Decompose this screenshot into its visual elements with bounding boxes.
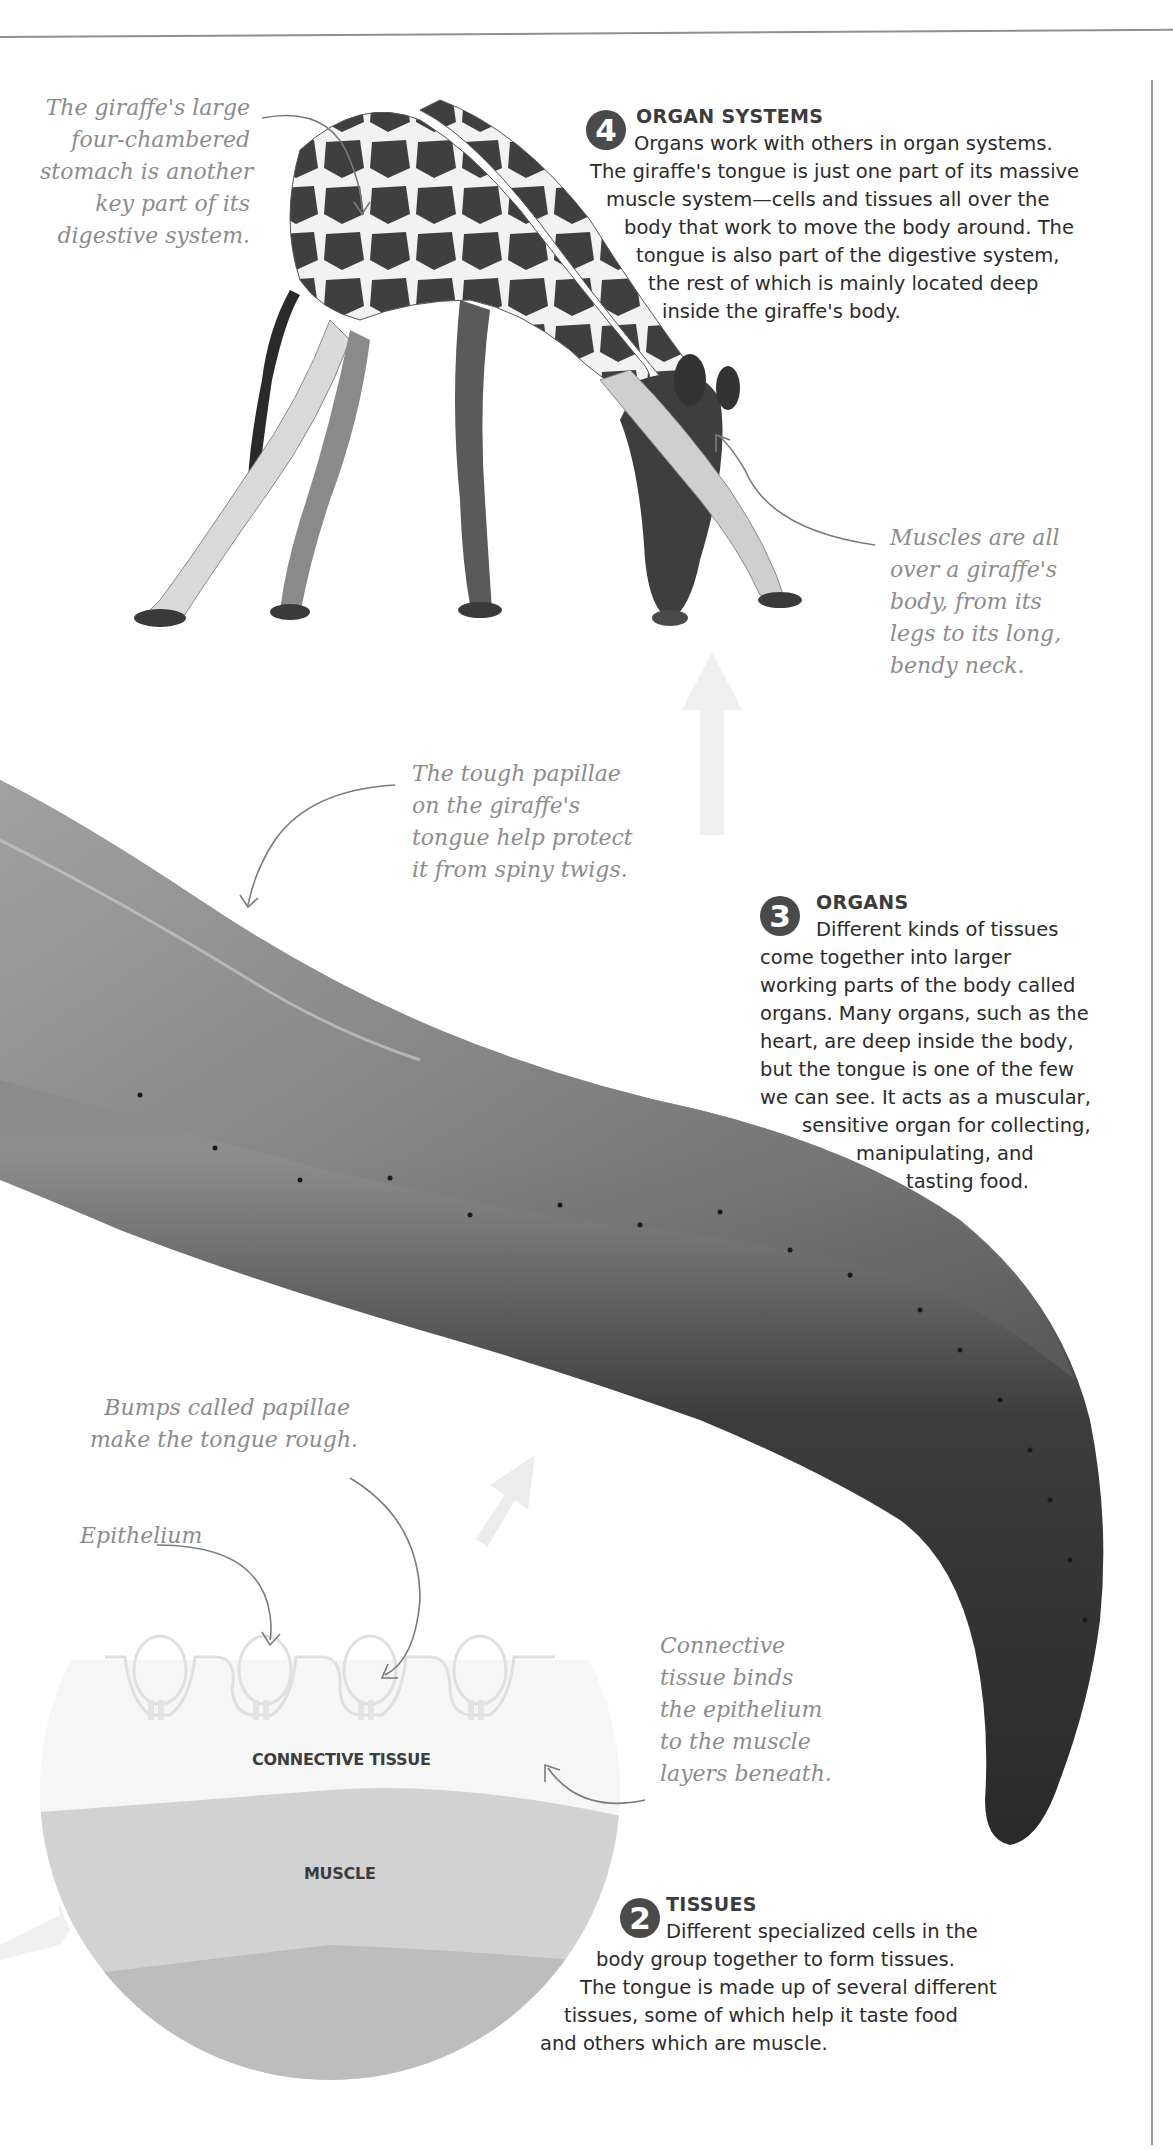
tissues-heading: TISSUES bbox=[540, 1890, 1060, 1918]
connective-tissue-label: CONNECTIVE TISSUE bbox=[252, 1750, 431, 1769]
annotation-muscles: Muscles are all over a giraffe's body, f… bbox=[890, 522, 1090, 682]
annotation-connective-tissue: Connective tissue binds the epithelium t… bbox=[660, 1630, 880, 1790]
organ-systems-heading: ORGAN SYSTEMS bbox=[590, 102, 1130, 130]
organs-block: ORGANS Different kinds of tissues come t… bbox=[760, 888, 1140, 1196]
faint-up-arrow-1 bbox=[682, 652, 742, 835]
organs-heading: ORGANS bbox=[760, 888, 1140, 916]
faint-arrow-3 bbox=[0, 1900, 70, 1960]
annotation-tough-papillae: The tough papillae on the giraffe's tong… bbox=[412, 758, 652, 886]
annotation-epithelium: Epithelium bbox=[80, 1520, 240, 1552]
muscle-label: MUSCLE bbox=[304, 1864, 376, 1883]
organ-systems-block: ORGAN SYSTEMS Organs work with others in… bbox=[590, 102, 1130, 326]
tissues-block: TISSUES Different specialized cells in t… bbox=[540, 1890, 1060, 2058]
annotation-bumps-papillae: Bumps called papillae make the tongue ro… bbox=[90, 1392, 350, 1456]
annotation-stomach: The giraffe's large four-chambered stoma… bbox=[40, 92, 250, 252]
